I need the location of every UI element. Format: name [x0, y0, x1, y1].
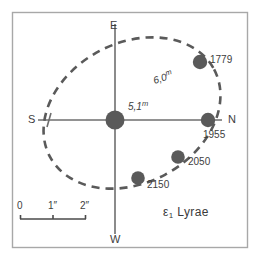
cardinal-label-north: N — [228, 114, 236, 125]
scale-tick-label-1: 1″ — [48, 201, 57, 211]
cardinal-label-east: E — [110, 20, 118, 31]
epoch-label-1955: 1955 — [203, 130, 225, 140]
cardinal-label-west: W — [110, 234, 121, 245]
star-orbit-figure: E W S N 5,1m 6,0m 1779 1955 2050 2150 0 … — [0, 0, 260, 261]
orbit-point-1955 — [201, 113, 215, 127]
orbit-point-1779 — [193, 55, 207, 69]
epoch-label-2150: 2150 — [147, 180, 169, 190]
epoch-label-2050: 2050 — [188, 157, 210, 167]
object-name-constellation: Lyrae — [177, 205, 209, 219]
primary-magnitude-value: 5,1 — [128, 101, 142, 112]
orbit-point-2150 — [131, 171, 145, 185]
object-name-subscript: 1 — [169, 211, 174, 220]
scale-tick-label-2: 2″ — [80, 201, 89, 211]
epoch-label-1779: 1779 — [210, 55, 232, 65]
primary-star-dot — [106, 111, 125, 130]
object-name-greek: ε — [163, 205, 169, 219]
cardinal-label-south: S — [28, 114, 36, 125]
orbit-point-2050 — [171, 150, 185, 164]
primary-magnitude-label: 5,1m — [128, 102, 148, 112]
object-name-label: ε1 Lyrae — [163, 206, 209, 218]
primary-magnitude-superscript: m — [142, 99, 148, 108]
scale-tick-label-0: 0 — [17, 201, 23, 211]
